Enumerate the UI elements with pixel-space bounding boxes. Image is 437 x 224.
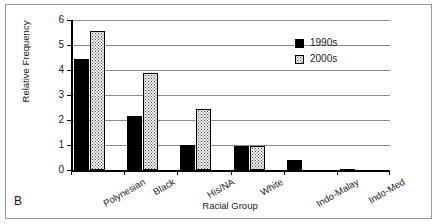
gridline — [71, 70, 390, 71]
bar-black-1990s — [127, 116, 142, 170]
bar-his-na-1990s — [180, 145, 195, 170]
y-axis-title: Relative Frequency — [20, 7, 31, 117]
legend-label-1990s: 1990s — [310, 38, 337, 48]
x-tick — [337, 171, 338, 175]
gridline — [71, 145, 390, 146]
bar-white-1990s — [234, 146, 249, 170]
y-tick — [67, 70, 72, 71]
bar-white-2000s — [250, 146, 265, 170]
legend-swatch-2000s — [295, 55, 304, 64]
bar-black-2000s — [143, 73, 158, 170]
bar-polynesian-1990s — [74, 59, 89, 170]
y-tick — [67, 95, 72, 96]
figure-panel-b: B Relative Frequency Racial Group 012345… — [0, 0, 437, 224]
x-category-label: White — [258, 176, 285, 198]
x-tick — [177, 171, 178, 175]
y-tick-label: 1 — [58, 140, 64, 150]
legend-item-1990s: 1990s — [295, 36, 337, 50]
legend-item-2000s: 2000s — [295, 52, 337, 66]
legend-label-2000s: 2000s — [310, 54, 337, 64]
gridline — [71, 95, 390, 96]
x-category-label: Indo-Malay — [314, 176, 360, 209]
panel-label: B — [14, 194, 22, 208]
gridline — [71, 45, 390, 46]
y-tick — [67, 145, 72, 146]
y-tick-label: 3 — [58, 90, 64, 100]
y-tick — [67, 45, 72, 46]
y-tick — [67, 20, 72, 21]
y-tick — [67, 120, 72, 121]
bar-polynesian-2000s — [90, 31, 105, 170]
x-category-label: Black — [151, 176, 177, 197]
gridline — [71, 20, 390, 21]
legend: 1990s2000s — [295, 36, 337, 68]
x-tick — [124, 171, 125, 175]
y-tick-label: 4 — [58, 65, 64, 75]
legend-swatch-1990s — [295, 39, 304, 48]
bar-indo-med-1990s — [340, 169, 355, 170]
x-axis-title: Racial Group — [150, 200, 310, 211]
y-tick-label: 0 — [58, 165, 64, 175]
bar-his-na-2000s — [196, 109, 211, 170]
gridline — [71, 120, 390, 121]
x-category-label: Polynesian — [101, 176, 147, 209]
x-category-label: Indo-Med — [366, 176, 406, 206]
bar-indo-malay-1990s — [287, 160, 302, 171]
x-tick — [284, 171, 285, 175]
y-tick-label: 2 — [58, 115, 64, 125]
plot-area: 0123456 PolynesianBlackHis/NAWhiteIndo-M… — [71, 20, 390, 170]
y-tick-label: 5 — [58, 40, 64, 50]
y-tick-label: 6 — [58, 15, 64, 25]
x-category-label: His/NA — [205, 176, 236, 200]
x-tick — [71, 171, 72, 175]
x-tick — [389, 171, 390, 175]
